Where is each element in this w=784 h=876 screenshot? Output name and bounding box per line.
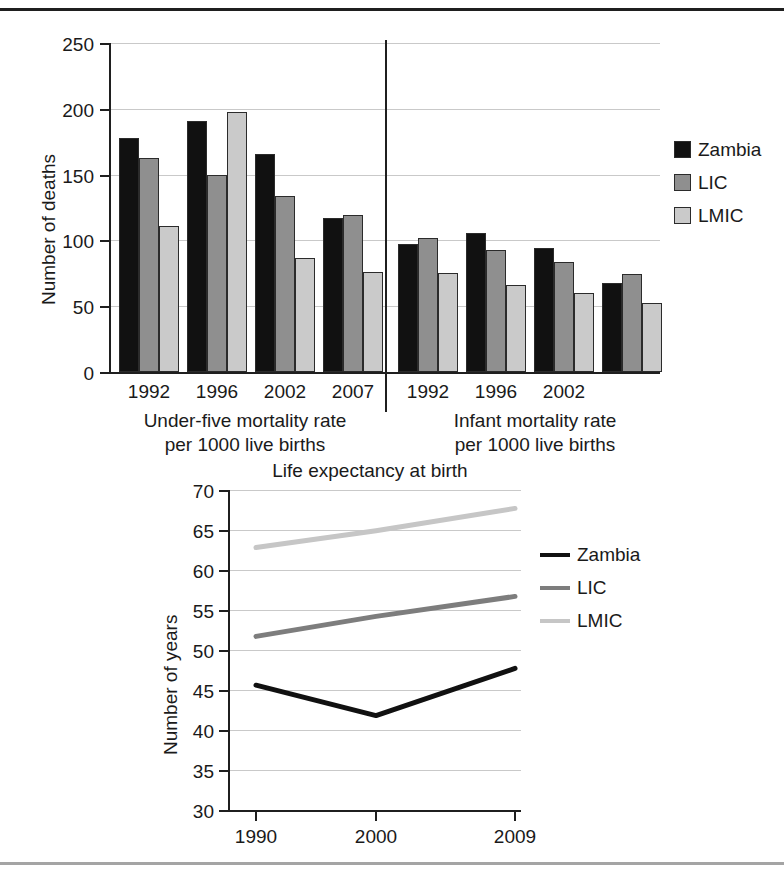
panel-caption-infant-line1: Infant mortality rate [410, 410, 660, 432]
legend-item-line-lic: LIC [540, 578, 607, 597]
line-path-lmic [256, 508, 515, 547]
line-x-tickmark-1990 [255, 812, 257, 821]
legend-swatch-zambia-icon [674, 141, 691, 158]
legend-line-zambia-icon [540, 553, 570, 557]
line-x-tickmark-2000 [375, 812, 377, 821]
panel-caption-underfive-line2: per 1000 live births [120, 434, 370, 456]
bar-infant-2007-lic [622, 274, 642, 372]
legend-swatch-lmic-icon [674, 207, 691, 224]
bar-chart-mortality: Number of deaths 250 200 150 100 50 0 [0, 0, 784, 460]
bar-infant-2002-lic [554, 262, 574, 372]
legend-item-lic: LIC [674, 173, 728, 192]
legend-label-line-lmic: LMIC [577, 611, 622, 630]
bar-y-tick-50: 50 [48, 298, 94, 317]
line-y-tickmark-30 [219, 810, 228, 812]
bar-infant-2002-zambia [534, 248, 554, 372]
bar-underfive-1996-lic [207, 175, 227, 372]
bar-underfive-2007-zambia [323, 218, 343, 372]
bar-x-tick-infant-2002: 2002 [534, 382, 594, 401]
bar-y-tick-0: 0 [48, 364, 94, 383]
line-y-tick-45: 45 [178, 682, 214, 701]
bar-y-tick-100: 100 [48, 232, 94, 251]
line-y-tick-70: 70 [178, 482, 214, 501]
bar-underfive-1992-lic [139, 158, 159, 372]
line-y-tickmark-45 [219, 690, 228, 692]
bottom-divider-rule [0, 862, 784, 865]
bar-infant-2007-lmic [642, 303, 662, 372]
panel-caption-underfive-line1: Under-five mortality rate [120, 410, 370, 432]
bar-underfive-2002-lmic [295, 258, 315, 372]
bar-x-tick-underfive-2002: 2002 [255, 382, 315, 401]
bar-x-tick-infant-1992: 1992 [398, 382, 458, 401]
bar-chart-y-axis [109, 43, 111, 374]
line-y-tickmark-60 [219, 570, 228, 572]
bar-y-tick-250: 250 [48, 35, 94, 54]
legend-label-line-lic: LIC [577, 578, 607, 597]
legend-label-lmic: LMIC [698, 206, 743, 225]
legend-item-lmic: LMIC [674, 206, 743, 225]
bar-x-tick-underfive-2007: 2007 [323, 382, 383, 401]
line-y-tick-50: 50 [178, 642, 214, 661]
legend-item-line-lmic: LMIC [540, 611, 622, 630]
line-x-tick-2000: 2000 [346, 827, 406, 846]
bar-infant-1996-lmic [506, 285, 526, 372]
bar-infant-1992-lic [418, 238, 438, 372]
line-y-tick-65: 65 [178, 522, 214, 541]
bar-x-tick-infant-1996: 1996 [466, 382, 526, 401]
line-chart-y-axis [228, 490, 230, 810]
line-y-tick-30: 30 [178, 802, 214, 821]
line-y-tick-55: 55 [178, 602, 214, 621]
bar-underfive-1992-zambia [119, 138, 139, 372]
line-path-zambia [256, 668, 515, 715]
line-series-group [0, 460, 784, 860]
bar-infant-1992-lmic [438, 273, 458, 372]
bar-infant-1992-zambia [398, 244, 418, 372]
bar-underfive-2007-lic [343, 215, 363, 372]
panel-divider [385, 40, 387, 412]
bar-y-tick-200: 200 [48, 101, 94, 120]
bar-y-tickmark-150 [100, 175, 109, 177]
line-chart-title: Life expectancy at birth [200, 460, 540, 482]
line-gridline-50 [228, 650, 521, 651]
line-y-tickmark-55 [219, 610, 228, 612]
legend-label-line-zambia: Zambia [577, 545, 640, 564]
line-y-tickmark-50 [219, 650, 228, 652]
legend-item-zambia: Zambia [674, 140, 761, 159]
bar-infant-1996-lic [486, 250, 506, 372]
line-chart-legend: Zambia LIC LMIC [540, 545, 690, 635]
bar-underfive-2007-lmic [363, 272, 383, 372]
bar-y-tickmark-50 [100, 306, 109, 308]
line-gridline-70 [228, 490, 521, 491]
bar-underfive-1992-lmic [159, 226, 179, 372]
line-gridline-45 [228, 690, 521, 691]
figure-page: Number of deaths 250 200 150 100 50 0 [0, 0, 784, 876]
line-y-tickmark-70 [219, 490, 228, 492]
line-gridline-55 [228, 610, 521, 611]
line-y-tickmark-40 [219, 730, 228, 732]
line-gridline-65 [228, 530, 521, 531]
line-y-tickmark-35 [219, 770, 228, 772]
line-gridline-35 [228, 770, 521, 771]
panel-caption-infant-line2: per 1000 live births [410, 434, 660, 456]
bar-underfive-2002-zambia [255, 154, 275, 372]
bar-chart-legend: Zambia LIC LMIC [674, 140, 784, 235]
bar-y-tickmark-100 [100, 240, 109, 242]
line-gridline-60 [228, 570, 521, 571]
line-gridline-40 [228, 730, 521, 731]
legend-label-lic: LIC [698, 173, 728, 192]
line-chart-life-expectancy: Life expectancy at birth Number of years… [0, 460, 784, 860]
bar-y-tick-150: 150 [48, 167, 94, 186]
line-x-tick-1990: 1990 [226, 827, 286, 846]
bar-y-tickmark-250 [100, 43, 109, 45]
bar-y-tickmark-200 [100, 109, 109, 111]
bar-infant-1996-zambia [466, 233, 486, 372]
legend-label-zambia: Zambia [698, 140, 761, 159]
legend-item-line-zambia: Zambia [540, 545, 640, 564]
line-y-tick-35: 35 [178, 762, 214, 781]
bar-x-tick-underfive-1992: 1992 [119, 382, 179, 401]
line-x-tick-2009: 2009 [485, 827, 545, 846]
bar-x-tick-underfive-1996: 1996 [187, 382, 247, 401]
bar-infant-2002-lmic [574, 293, 594, 372]
line-x-tickmark-2009 [514, 812, 516, 821]
bar-y-tickmark-0 [100, 372, 109, 374]
